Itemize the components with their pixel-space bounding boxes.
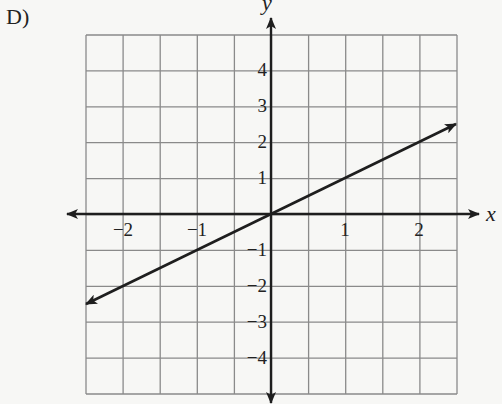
x-tick-label: 1 [340,219,350,240]
y-tick-label: 1 [258,167,268,188]
coordinate-plane: −2−112−4−3−2−11234 x y [0,0,502,404]
y-tick-label: 3 [258,95,268,116]
x-tick-label: 2 [414,219,424,240]
x-tick-label: −2 [113,219,133,240]
y-tick-label: −2 [247,275,267,296]
y-axis-label: y [260,0,272,15]
y-tick-label: 4 [258,59,268,80]
y-tick-label: −4 [247,347,268,368]
y-tick-label: −3 [247,311,267,332]
x-axis-label: x [485,201,496,226]
y-tick-label: 2 [258,131,268,152]
axes [67,18,479,403]
x-tick-label: −1 [187,219,207,240]
y-tick-label: −1 [247,239,267,260]
